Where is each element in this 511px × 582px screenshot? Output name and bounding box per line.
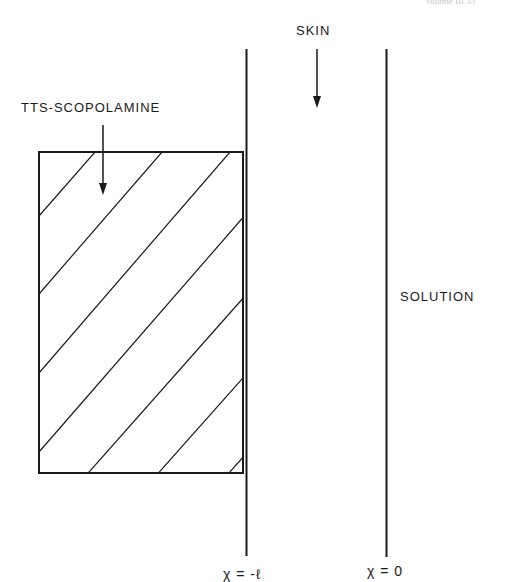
tts-scopolamine-label: TTS-SCOPOLAMINE: [21, 100, 160, 115]
x-zero-label: χ = 0: [367, 563, 403, 579]
skin-arrow-head: [313, 96, 321, 108]
tts-scopolamine-patch: [39, 152, 243, 473]
solution-label: SOLUTION: [400, 289, 474, 304]
x-minus-l-label: χ = -ℓ: [223, 566, 262, 582]
patch-hatching: [20, 152, 330, 550]
skin-label: SKIN: [296, 23, 330, 38]
patch-arrow-head: [99, 183, 107, 195]
